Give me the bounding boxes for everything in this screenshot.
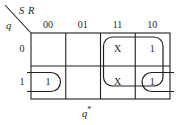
cell-q0-sr11: X	[101, 44, 135, 54]
column-header-11: 11	[101, 20, 135, 30]
output-label: q*	[82, 106, 91, 119]
karnaugh-map: S R q 00 01 11 10 0 1 X 1 1 X 1 q*	[0, 0, 177, 125]
cell-q1-sr00: 1	[31, 77, 65, 87]
cell-q0-sr10: 1	[135, 44, 169, 54]
output-label-superscript: *	[87, 105, 91, 114]
column-header-01: 01	[66, 20, 100, 30]
cell-q1-sr11: X	[101, 77, 135, 87]
column-variable-label: S R	[19, 6, 35, 17]
column-header-00: 00	[31, 20, 65, 30]
column-header-10: 10	[135, 20, 169, 30]
row-header-1: 1	[16, 77, 28, 87]
row-variable-label: q	[6, 21, 12, 32]
cell-q1-sr10: 1	[135, 77, 169, 87]
row-header-0: 0	[16, 44, 28, 54]
